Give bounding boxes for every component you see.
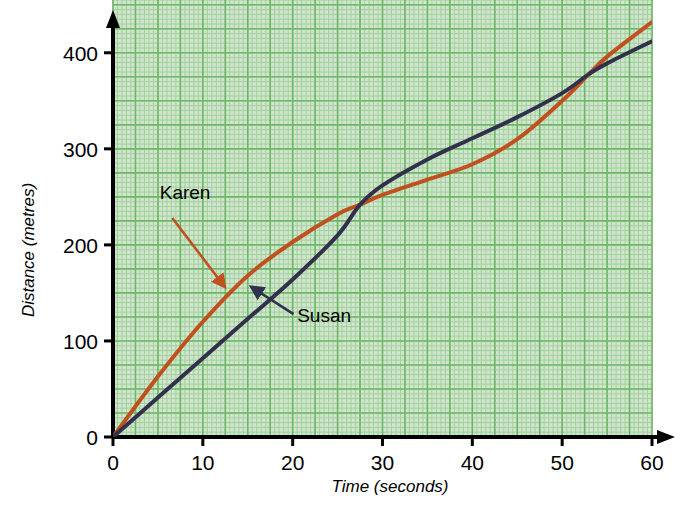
x-tick-label: 30: [371, 451, 394, 474]
x-tick-label: 40: [461, 451, 484, 474]
x-tick-label: 10: [191, 451, 214, 474]
series-label-susan: Susan: [297, 305, 351, 326]
y-tick-label: 100: [63, 330, 98, 353]
x-axis-arrowhead: [657, 430, 675, 444]
chart-container: 01020304050600100200300400 KarenSusan Di…: [0, 0, 689, 511]
x-tick-label: 60: [640, 451, 663, 474]
x-tick-label: 0: [107, 451, 119, 474]
y-axis-label: Distance (metres): [19, 183, 38, 317]
x-tick-label: 20: [281, 451, 304, 474]
x-axis-label: Time (seconds): [332, 477, 449, 496]
x-tick-label: 50: [550, 451, 573, 474]
distance-time-graph: 01020304050600100200300400 KarenSusan Di…: [0, 0, 689, 511]
y-tick-label: 400: [63, 42, 98, 65]
y-tick-label: 0: [86, 426, 98, 449]
series-label-karen: Karen: [160, 182, 211, 203]
y-tick-label: 200: [63, 234, 98, 257]
y-tick-label: 300: [63, 138, 98, 161]
